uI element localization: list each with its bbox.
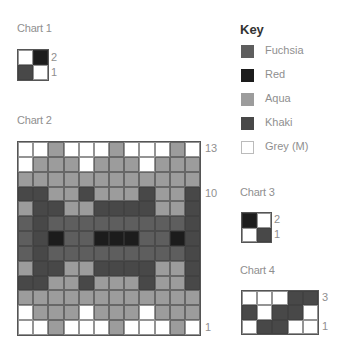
key-item-aqua: Aqua: [241, 92, 254, 106]
grid-cell: [124, 276, 139, 291]
grid-cell: [79, 142, 94, 157]
grid-cell: [242, 305, 257, 319]
grid-cell: [242, 291, 257, 305]
grid-cell: [185, 261, 200, 276]
grid-cell: [33, 276, 48, 291]
grid-cell: [48, 320, 63, 335]
grid-cell: [124, 261, 139, 276]
grid-cell: [242, 228, 257, 243]
grid-cell: [155, 187, 170, 202]
grid-cell: [242, 213, 257, 228]
grid-cell: [94, 231, 109, 246]
grid-cell: [64, 187, 79, 202]
grid-cell: [18, 320, 33, 335]
grid-cell: [257, 228, 272, 243]
color-swatch: [241, 93, 254, 106]
grid-cell: [79, 216, 94, 231]
grid-cell: [170, 231, 185, 246]
grid-cell: [48, 276, 63, 291]
grid-cell: [109, 231, 124, 246]
chart-2-grid: [17, 141, 201, 336]
grid-cell: [94, 201, 109, 216]
grid-cell: [170, 261, 185, 276]
grid-cell: [79, 187, 94, 202]
grid-cell: [155, 246, 170, 261]
grid-cell: [124, 231, 139, 246]
grid-cell: [64, 276, 79, 291]
chart-4-grid: [241, 290, 319, 335]
grid-cell: [18, 172, 33, 187]
chart-1-row-label-1: 1: [51, 66, 57, 78]
grid-cell: [79, 172, 94, 187]
grid-cell: [139, 172, 154, 187]
grid-cell: [139, 320, 154, 335]
key-label: Fuchsia: [265, 44, 304, 57]
grid-cell: [155, 290, 170, 305]
grid-cell: [79, 246, 94, 261]
grid-cell: [303, 305, 318, 319]
grid-cell: [109, 187, 124, 202]
grid-cell: [272, 305, 287, 319]
grid-cell: [139, 305, 154, 320]
grid-cell: [18, 157, 33, 172]
grid-cell: [124, 201, 139, 216]
grid-cell: [139, 216, 154, 231]
grid-cell: [48, 142, 63, 157]
grid-cell: [64, 261, 79, 276]
grid-cell: [257, 213, 272, 228]
grid-cell: [64, 231, 79, 246]
grid-cell: [185, 187, 200, 202]
grid-cell: [48, 157, 63, 172]
grid-cell: [33, 201, 48, 216]
grid-cell: [139, 246, 154, 261]
grid-cell: [18, 201, 33, 216]
chart-1-grid: [17, 49, 49, 81]
grid-cell: [79, 305, 94, 320]
grid-cell: [18, 50, 33, 65]
grid-cell: [18, 290, 33, 305]
grid-cell: [170, 276, 185, 291]
grid-cell: [124, 246, 139, 261]
grid-cell: [64, 142, 79, 157]
key-label: Khaki: [265, 116, 293, 129]
grid-cell: [185, 320, 200, 335]
grid-cell: [94, 261, 109, 276]
grid-cell: [109, 246, 124, 261]
grid-cell: [18, 142, 33, 157]
grid-cell: [94, 276, 109, 291]
grid-cell: [33, 305, 48, 320]
grid-cell: [185, 201, 200, 216]
grid-cell: [257, 320, 272, 334]
chart-3-title: Chart 3: [240, 186, 275, 198]
grid-cell: [155, 305, 170, 320]
grid-cell: [155, 261, 170, 276]
grid-cell: [185, 172, 200, 187]
grid-cell: [124, 172, 139, 187]
grid-cell: [33, 231, 48, 246]
grid-cell: [288, 291, 303, 305]
grid-cell: [109, 290, 124, 305]
color-swatch: [241, 141, 254, 154]
grid-cell: [170, 187, 185, 202]
chart-1-row-label-2: 2: [51, 51, 57, 63]
grid-cell: [109, 276, 124, 291]
key-item-grey-m: Grey (M): [241, 140, 254, 154]
grid-cell: [94, 305, 109, 320]
grid-cell: [139, 261, 154, 276]
grid-cell: [94, 216, 109, 231]
chart-2-row-label-10: 10: [205, 187, 217, 199]
grid-cell: [139, 201, 154, 216]
grid-cell: [33, 172, 48, 187]
chart-3-row-label-2: 2: [274, 213, 280, 225]
grid-cell: [18, 261, 33, 276]
grid-cell: [94, 246, 109, 261]
grid-cell: [257, 291, 272, 305]
grid-cell: [18, 187, 33, 202]
grid-cell: [185, 231, 200, 246]
grid-cell: [185, 305, 200, 320]
grid-cell: [18, 276, 33, 291]
grid-cell: [18, 246, 33, 261]
grid-cell: [64, 290, 79, 305]
grid-cell: [33, 65, 48, 80]
grid-cell: [64, 172, 79, 187]
